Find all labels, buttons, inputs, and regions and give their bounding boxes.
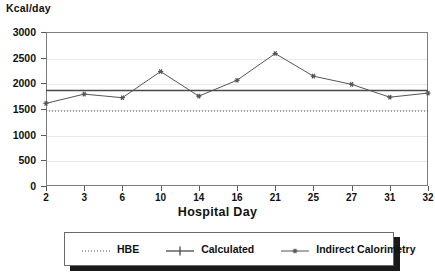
- data-point-marker: [43, 101, 48, 106]
- series-indirect-calorimetry: [43, 51, 430, 105]
- x-axis-label: 21: [270, 192, 281, 203]
- x-axis-tick: [428, 186, 429, 191]
- x-axis-tick: [237, 186, 238, 191]
- legend-label: HBE: [117, 243, 139, 255]
- x-axis-label: 3: [81, 192, 87, 203]
- x-axis-tick: [122, 186, 123, 191]
- y-axis-label: 500: [0, 154, 36, 166]
- x-axis-tick: [84, 186, 85, 191]
- legend-label: Indirect Calorimetry: [316, 243, 415, 255]
- y-axis-label: 0: [0, 180, 36, 192]
- y-axis-label: 2000: [0, 77, 36, 89]
- x-axis-tick: [352, 186, 353, 191]
- x-axis-label: 25: [308, 192, 319, 203]
- solid-star-swatch-icon: [280, 243, 310, 255]
- data-point-marker: [425, 91, 430, 96]
- x-axis-tick: [275, 186, 276, 191]
- data-point-marker: [387, 95, 392, 100]
- x-axis-tick: [46, 186, 47, 191]
- x-axis-label: 31: [384, 192, 395, 203]
- x-axis-tick: [313, 186, 314, 191]
- y-axis-label: 3000: [0, 26, 36, 38]
- x-axis-label: 10: [155, 192, 166, 203]
- y-axis-label: 2500: [0, 52, 36, 64]
- x-axis-label: 6: [120, 192, 126, 203]
- y-axis-label: 1500: [0, 103, 36, 115]
- data-point-marker: [293, 249, 298, 254]
- x-axis-title: Hospital Day: [0, 205, 435, 219]
- x-axis-label: 27: [346, 192, 357, 203]
- series-line: [46, 54, 428, 104]
- x-axis-label: 16: [231, 192, 242, 203]
- chart-root: Kcal/day 050010001500200025003000 236101…: [0, 0, 435, 277]
- dotted-line-swatch-icon: [81, 243, 111, 255]
- x-axis-tick: [199, 186, 200, 191]
- legend-label: Calculated: [201, 243, 254, 255]
- legend-item-indirect-calorimetry[interactable]: Indirect Calorimetry: [280, 243, 415, 255]
- y-axis: 050010001500200025003000: [0, 0, 44, 277]
- series-layer: [46, 32, 428, 186]
- x-axis-label: 2: [43, 192, 49, 203]
- y-axis-label: 1000: [0, 129, 36, 141]
- x-axis-tick: [390, 186, 391, 191]
- chart-legend: HBECalculatedIndirect Calorimetry: [64, 232, 394, 266]
- legend-item-calculated[interactable]: Calculated: [165, 243, 254, 255]
- solid-plus-swatch-icon: [165, 243, 195, 255]
- data-point-marker: [349, 82, 354, 87]
- legend-item-hbe[interactable]: HBE: [81, 243, 139, 255]
- data-point-marker: [82, 92, 87, 97]
- x-axis-label: 32: [422, 192, 433, 203]
- x-axis-tick: [161, 186, 162, 191]
- x-axis-label: 14: [193, 192, 204, 203]
